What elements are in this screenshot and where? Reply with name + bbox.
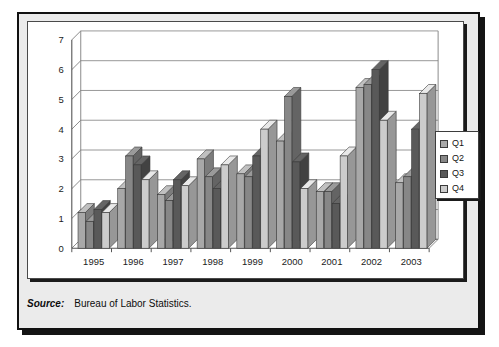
legend-item-label: Q3	[452, 169, 464, 178]
bar-chart-svg: 01234567 1995199619971998199920002001200…	[28, 22, 463, 278]
bar-1998-Q4[interactable]	[221, 156, 237, 248]
bar-2000-Q4[interactable]	[300, 180, 316, 248]
bar-1995-Q4[interactable]	[102, 204, 118, 249]
y-tick-label: 3	[59, 153, 64, 164]
y-tick-label: 4	[59, 124, 64, 135]
bar-1997-Q4[interactable]	[181, 177, 197, 248]
legend-item-q1[interactable]: Q1	[440, 136, 478, 151]
x-tick-label: 1998	[202, 256, 223, 267]
legend-swatch-icon	[440, 140, 448, 148]
plot-area: 01234567 1995199619971998199920002001200…	[28, 22, 463, 278]
y-tick-label: 7	[59, 34, 64, 45]
bar-2002-Q4[interactable]	[380, 111, 396, 248]
y-tick-label: 2	[59, 183, 64, 194]
source-label: Source:	[27, 298, 64, 309]
legend-item-label: Q4	[452, 184, 464, 193]
x-axis: 199519961997199819992000200120022003	[72, 248, 429, 267]
source-note: Source: Bureau of Labor Statistics.	[27, 291, 464, 315]
x-tick-label: 2000	[282, 256, 303, 267]
y-tick-label: 0	[59, 243, 64, 254]
x-tick-label: 1997	[163, 256, 184, 267]
x-tick-label: 2001	[321, 256, 342, 267]
y-tick-label: 6	[59, 64, 64, 75]
legend-swatch-icon	[440, 155, 448, 163]
bar-2003-Q4[interactable]	[420, 85, 436, 249]
legend-item-q4[interactable]: Q4	[440, 181, 478, 196]
legend-item-q3[interactable]: Q3	[440, 166, 478, 181]
legend: Q1Q2Q3Q4	[435, 131, 479, 199]
x-tick-label: 2002	[361, 256, 382, 267]
chart-plate: 01234567 1995199619971998199920002001200…	[27, 21, 464, 279]
bar-1996-Q4[interactable]	[142, 171, 158, 248]
x-tick-label: 1995	[83, 256, 104, 267]
legend-swatch-icon	[440, 170, 448, 178]
bars	[78, 61, 436, 249]
x-tick-label: 1996	[123, 256, 144, 267]
y-tick-label: 1	[59, 213, 64, 224]
x-tick-label: 2003	[401, 256, 422, 267]
bar-2001-Q4[interactable]	[340, 147, 356, 248]
y-tick-label: 5	[59, 94, 64, 105]
bar-1999-Q4[interactable]	[261, 120, 277, 248]
x-tick-label: 1999	[242, 256, 263, 267]
legend-item-label: Q2	[452, 154, 464, 163]
source-value: Bureau of Labor Statistics.	[74, 298, 191, 309]
legend-item-q2[interactable]: Q2	[440, 151, 478, 166]
legend-item-label: Q1	[452, 139, 464, 148]
legend-swatch-icon	[440, 185, 448, 193]
figure-frame: 01234567 1995199619971998199920002001200…	[17, 12, 480, 330]
